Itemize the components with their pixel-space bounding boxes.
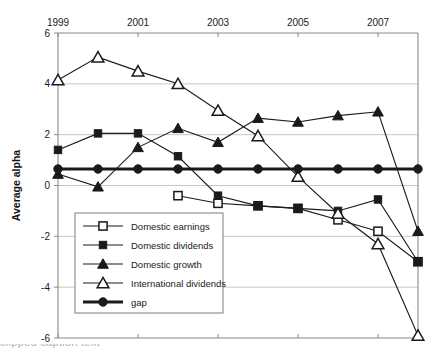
data-point-filled-triangle (413, 226, 424, 235)
data-point-open-square (174, 192, 182, 200)
chart-legend: Domestic earningsDomestic dividendsDomes… (75, 213, 226, 313)
data-point-open-triangle (172, 78, 184, 88)
line-chart-canvas: 19992001200320052007 6420-2-4-6 Average … (0, 0, 443, 359)
legend-label: Domestic earnings (131, 221, 210, 232)
data-point-open-square (99, 222, 107, 230)
legend-label: International dividends (131, 278, 226, 289)
y-tick-label: -4 (41, 282, 50, 293)
data-point-filled-square (254, 202, 261, 209)
y-tick-label: -6 (41, 333, 50, 344)
y-axis-ticks: 6420-2-4-6 (41, 28, 58, 344)
data-point-filled-circle (374, 165, 382, 173)
y-tick-label: 0 (44, 180, 50, 191)
chart-figure: 19992001200320052007 6420-2-4-6 Average … (0, 0, 443, 359)
data-point-open-triangle (372, 238, 384, 248)
data-point-open-triangle (212, 105, 224, 115)
legend-label: Domestic growth (131, 259, 202, 270)
data-point-open-square (374, 227, 382, 235)
data-point-filled-circle (414, 165, 422, 173)
series-gap (54, 165, 422, 173)
data-point-open-square (214, 199, 222, 207)
data-point-filled-circle (174, 165, 182, 173)
data-point-filled-triangle (213, 137, 224, 146)
data-point-filled-triangle (253, 113, 264, 122)
data-point-filled-square (54, 146, 61, 153)
x-tick-label: 2001 (127, 17, 150, 28)
data-point-filled-square (174, 153, 181, 160)
y-tick-label: 2 (44, 129, 50, 140)
x-tick-label: 2005 (287, 17, 310, 28)
y-tick-label: -2 (41, 231, 50, 242)
legend-item-domestic-dividends[interactable]: Domestic dividends (83, 240, 214, 251)
data-point-filled-circle (254, 165, 262, 173)
data-point-filled-triangle (173, 123, 184, 132)
data-point-filled-circle (134, 165, 142, 173)
data-point-filled-circle (294, 165, 302, 173)
data-point-open-triangle (132, 66, 144, 76)
y-tick-label: 6 (44, 28, 50, 39)
data-point-filled-circle (54, 165, 62, 173)
data-point-open-triangle (92, 52, 104, 62)
clipped-footer-text: clipped caption text (0, 344, 443, 359)
data-point-filled-square (294, 205, 301, 212)
data-point-filled-triangle (373, 107, 384, 116)
data-point-open-triangle (412, 330, 424, 340)
legend-label: Domestic dividends (131, 240, 214, 251)
x-tick-label: 2007 (367, 17, 390, 28)
legend-label: gap (131, 297, 147, 308)
legend-item-international-dividends[interactable]: International dividends (83, 277, 226, 288)
x-tick-label: 2003 (207, 17, 230, 28)
data-point-filled-square (414, 258, 421, 265)
data-point-filled-circle (99, 298, 107, 306)
data-point-filled-square (374, 196, 381, 203)
y-tick-label: 4 (44, 78, 50, 89)
data-point-filled-square (214, 192, 221, 199)
legend-item-domestic-earnings[interactable]: Domestic earnings (83, 221, 210, 232)
x-tick-label: 1999 (47, 17, 70, 28)
data-point-filled-triangle (133, 142, 144, 151)
data-point-open-triangle (52, 74, 64, 84)
data-point-open-triangle (252, 130, 264, 140)
y-axis-title: Average alpha (10, 150, 22, 222)
data-point-filled-square (94, 130, 101, 137)
data-point-filled-circle (334, 165, 342, 173)
y-axis-label: Average alpha (10, 150, 22, 222)
data-point-filled-circle (94, 165, 102, 173)
data-point-filled-square (134, 130, 141, 137)
data-point-filled-circle (214, 165, 222, 173)
footer-text: clipped caption text (0, 344, 443, 348)
data-point-filled-square (99, 241, 106, 248)
